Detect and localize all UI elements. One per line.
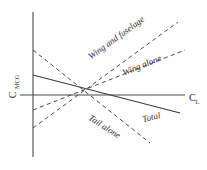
label-total: Total [141,110,162,124]
x-axis-label: C L [189,92,200,105]
y-axis-label: C MCG [7,74,20,98]
cm-vs-cl-plot: C MCG C L Wing and fuselage Wing alone T… [0,0,207,170]
curve-wing-alone [33,50,185,110]
figure-container: C MCG C L Wing and fuselage Wing alone T… [0,0,207,170]
curve-total [33,75,180,113]
y-axis-label-main: C [7,91,18,98]
x-axis-label-sub: L [196,98,200,105]
label-wing-and-fuselage: Wing and fuselage [86,14,146,61]
label-wing-alone: Wing alone [121,53,163,78]
y-axis-label-sub: MCG [13,74,20,89]
caption-clipped-strip [0,164,207,170]
